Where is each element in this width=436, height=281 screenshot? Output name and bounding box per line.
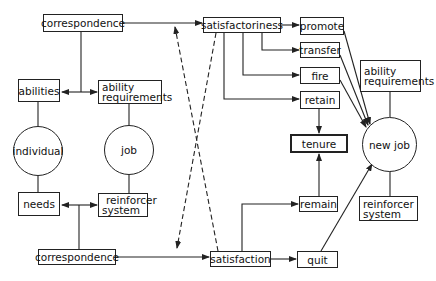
reinforcer-system-line2: system [102, 205, 140, 215]
transfer-label: transfer [299, 45, 340, 55]
satisfactoriness-label: satisfactoriness [201, 20, 283, 30]
fire-label: fire [311, 71, 328, 81]
tenure-label: tenure [302, 139, 336, 149]
new-job-reinforcer-system-line2: system [363, 209, 401, 219]
promote-label: promote [300, 21, 344, 31]
promote-box: promote [300, 17, 344, 35]
needs-label: needs [23, 199, 55, 209]
needs-box: needs [18, 192, 60, 216]
new-job-reinforcer-system-box: reinforcer system [359, 196, 418, 221]
job-circle: job [104, 125, 154, 175]
correspondence-bottom-box: correspondence [38, 249, 116, 265]
individual-label: individual [13, 145, 64, 157]
remain-box: remain [299, 196, 338, 212]
retain-label: retain [305, 95, 336, 105]
correspondence-top-box: correspondence [43, 14, 123, 32]
transfer-box: transfer [300, 42, 340, 58]
abilities-box: abilities [18, 79, 60, 102]
new-job-label: new job [369, 139, 410, 151]
satisfaction-box: satisfaction [210, 251, 271, 267]
correspondence-top-label: correspondence [41, 18, 125, 28]
remain-label: remain [300, 199, 337, 209]
new-job-ability-requirements-box: ability requirements [360, 60, 421, 92]
abilities-label: abilities [19, 86, 60, 96]
retain-box: retain [300, 91, 340, 109]
new-job-reinforcer-system-line1: reinforcer [363, 199, 414, 209]
new-job-circle: new job [362, 117, 417, 172]
job-label: job [121, 144, 137, 156]
quit-label: quit [307, 255, 327, 265]
ability-requirements-box: ability requirements [98, 80, 162, 104]
individual-circle: individual [13, 126, 63, 176]
fire-box: fire [300, 67, 340, 84]
tenure-box: tenure [290, 134, 348, 153]
correspondence-bottom-label: correspondence [35, 252, 119, 262]
reinforcer-system-box: reinforcer system [98, 193, 148, 217]
ability-requirements-line2: requirements [102, 92, 172, 102]
new-job-ability-requirements-line2: requirements [364, 76, 434, 86]
satisfaction-label: satisfaction [210, 254, 270, 264]
satisfactoriness-box: satisfactoriness [203, 17, 281, 33]
quit-box: quit [297, 251, 338, 268]
